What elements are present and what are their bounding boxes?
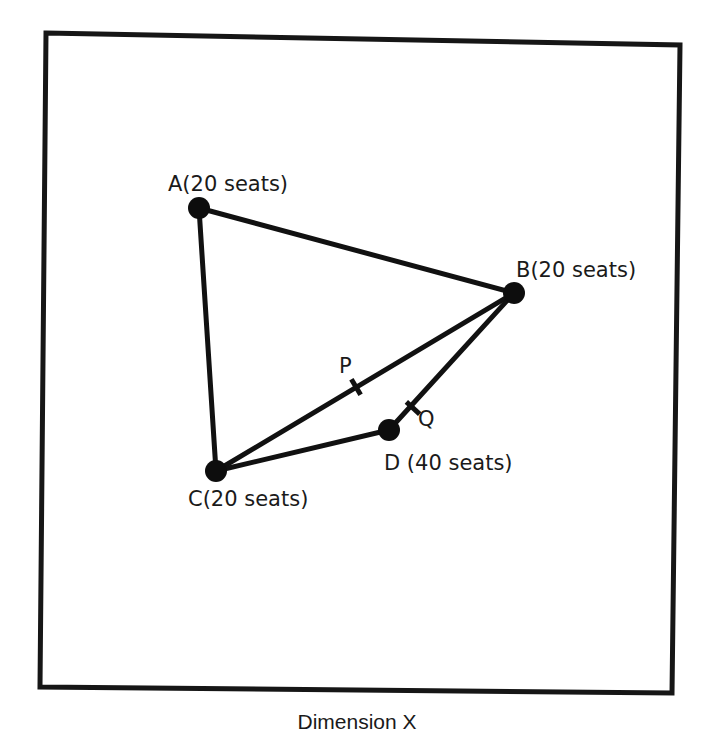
- node-d: [378, 419, 400, 441]
- mark-label-q: Q: [418, 407, 435, 431]
- node-label-d: D (40 seats): [384, 451, 513, 475]
- node-c: [205, 460, 227, 482]
- node-label-a: A(20 seats): [168, 172, 288, 196]
- node-label-c: C(20 seats): [188, 487, 308, 511]
- edges-group: [199, 208, 514, 471]
- node-b: [503, 282, 525, 304]
- edge-d-b: [389, 293, 514, 430]
- mark-label-p: P: [339, 354, 352, 378]
- edge-a-b: [199, 208, 514, 293]
- edge-a-c: [199, 208, 216, 471]
- edge-c-d: [216, 430, 389, 471]
- node-a: [188, 197, 210, 219]
- x-axis-label: Dimension X: [297, 710, 416, 733]
- edge-b-c: [216, 293, 514, 471]
- node-label-b: B(20 seats): [516, 258, 636, 282]
- perceptual-map-diagram: PQA(20 seats)B(20 seats)C(20 seats)D (40…: [0, 0, 714, 733]
- plot-frame: [40, 33, 680, 693]
